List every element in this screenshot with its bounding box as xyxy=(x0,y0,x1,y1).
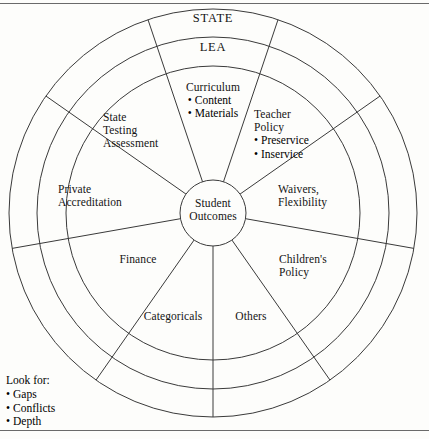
sector-waivers-line1: Waivers, xyxy=(278,183,368,196)
look-for-legend: Look for: Gaps Conflicts Depth xyxy=(6,374,55,429)
sector-teacher-policy-title-line2: Policy xyxy=(254,121,346,134)
sector-waivers-flexibility: Waivers, Flexibility xyxy=(278,183,368,209)
look-for-heading: Look for: xyxy=(6,374,55,388)
sector-waivers-line2: Flexibility xyxy=(278,196,368,209)
sector-state-testing-line1: State xyxy=(103,111,191,124)
sector-teacher-policy: Teacher Policy Preservice Inservice xyxy=(254,108,346,162)
sector-teacher-policy-bullets: Preservice Inservice xyxy=(254,134,309,160)
sector-categoricals: Categoricals xyxy=(133,310,213,323)
bullet-preservice: Preservice xyxy=(254,134,309,147)
look-for-items: Gaps Conflicts Depth xyxy=(6,388,55,429)
bullet-inservice: Inservice xyxy=(254,148,309,161)
sector-childrens-policy-line1: Children's xyxy=(279,253,369,266)
sector-curriculum-bullets: Content Materials xyxy=(188,94,238,120)
sector-private-accreditation-line1: Private xyxy=(58,183,168,196)
sector-curriculum-title: Curriculum xyxy=(163,81,263,94)
sector-childrens-policy: Children's Policy xyxy=(279,253,369,279)
sector-teacher-policy-title-line1: Teacher xyxy=(254,108,346,121)
sector-state-testing-line2: Testing xyxy=(103,124,191,137)
bullet-materials: Materials xyxy=(188,107,238,120)
ring-label-lea: LEA xyxy=(188,41,238,54)
look-for-item-conflicts: Conflicts xyxy=(6,402,55,416)
center-label: Student Outcomes xyxy=(173,197,253,223)
look-for-item-gaps: Gaps xyxy=(6,388,55,402)
sector-private-accreditation-line2: Accreditation xyxy=(58,196,168,209)
sector-state-testing-assessment: State Testing Assessment xyxy=(103,111,191,151)
center-label-line2: Outcomes xyxy=(173,210,253,223)
look-for-item-depth: Depth xyxy=(6,415,55,429)
sector-state-testing-line3: Assessment xyxy=(103,137,191,150)
sector-finance: Finance xyxy=(103,253,173,266)
ring-label-state: STATE xyxy=(183,12,243,25)
center-label-line1: Student xyxy=(173,197,253,210)
figure-canvas: STATE LEA Curriculum Content Materials T… xyxy=(0,0,429,439)
sector-childrens-policy-line2: Policy xyxy=(279,266,369,279)
sector-others: Others xyxy=(216,310,286,323)
bullet-content: Content xyxy=(188,94,238,107)
sector-private-accreditation: Private Accreditation xyxy=(58,183,168,209)
